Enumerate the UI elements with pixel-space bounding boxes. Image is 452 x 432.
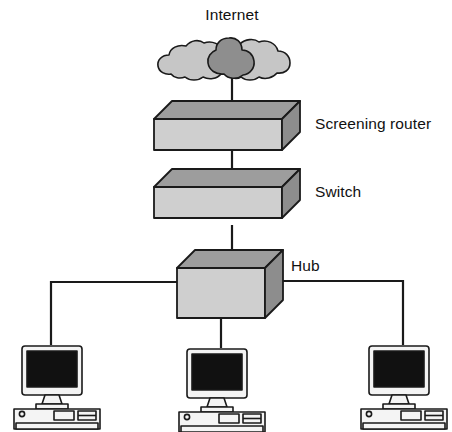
router-front-face	[154, 119, 282, 150]
computer-case-base	[16, 423, 98, 429]
label-screening-router: Screening router	[315, 115, 431, 132]
monitor-screen	[374, 351, 424, 387]
workstation-graphic	[361, 346, 447, 429]
label-hub: Hub	[291, 257, 320, 274]
monitor-screen	[27, 351, 77, 387]
workstation-graphic	[14, 346, 100, 429]
workstation-graphic	[179, 349, 265, 432]
drive-bay	[54, 411, 74, 420]
node-hub[interactable]: Hub	[177, 250, 320, 318]
monitor-neck	[389, 395, 409, 404]
network-diagram: Internet Screening router Switch Hub	[0, 0, 452, 432]
power-button-icon	[366, 411, 371, 416]
power-button-icon	[19, 411, 24, 416]
node-workstation-3[interactable]	[361, 346, 447, 429]
link-hub-workstation-3	[277, 281, 403, 345]
link-hub-workstation-1	[51, 282, 177, 345]
hub-front-face	[177, 268, 265, 318]
switch-front-face	[154, 187, 282, 218]
network-diagram-canvas: Internet Screening router Switch Hub	[0, 0, 452, 432]
monitor-neck	[42, 395, 62, 404]
label-switch: Switch	[315, 183, 361, 200]
drive-bay	[401, 411, 421, 420]
computer-case-base	[181, 426, 263, 432]
computer-case-base	[363, 423, 445, 429]
monitor-neck	[207, 398, 227, 407]
node-internet-cloud[interactable]: Internet	[158, 6, 290, 80]
monitor-screen	[192, 354, 242, 390]
switch-top-face	[154, 169, 300, 187]
node-workstation-2[interactable]	[179, 349, 265, 432]
power-button-icon	[184, 414, 189, 419]
node-switch[interactable]: Switch	[154, 169, 361, 218]
drive-bay	[219, 414, 239, 423]
node-screening-router[interactable]: Screening router	[154, 101, 431, 150]
node-workstation-1[interactable]	[14, 346, 100, 429]
label-internet: Internet	[205, 6, 259, 23]
router-top-face	[154, 101, 300, 119]
